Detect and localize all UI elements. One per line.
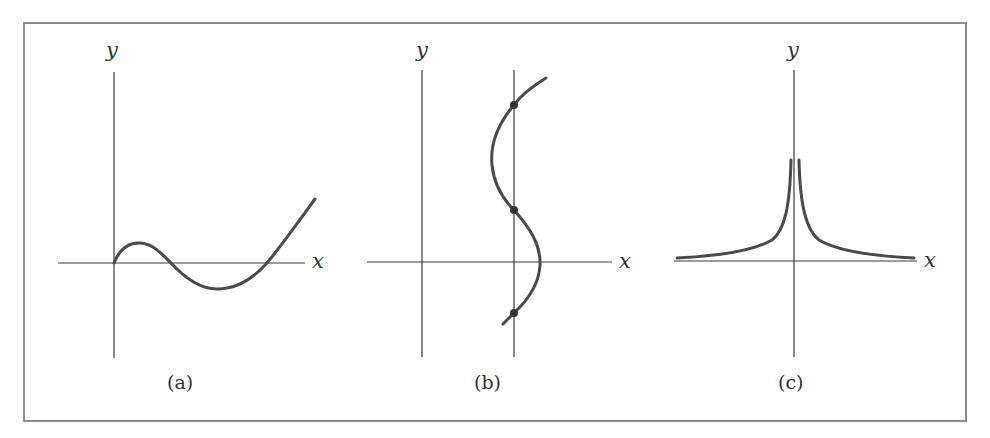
panel-b-intersection-dot-bottom	[510, 309, 518, 317]
panel-a-curve	[114, 199, 315, 289]
function-graphs-figure: y x (a) y x (b) y x (c)	[0, 0, 990, 438]
panel-c: y x (c)	[674, 38, 936, 393]
panel-a: y x (a)	[58, 38, 324, 393]
panel-b-s-curve	[492, 78, 546, 324]
panel-b-caption: (b)	[474, 371, 501, 393]
panel-b-intersection-dot-top	[510, 101, 518, 109]
panel-c-curve-left	[677, 160, 791, 258]
panel-c-caption: (c)	[778, 371, 803, 393]
panel-b-x-label: x	[619, 249, 631, 273]
figure-frame	[24, 23, 966, 421]
panel-a-x-label: x	[312, 249, 324, 273]
panel-b-intersection-dot-middle	[510, 206, 518, 214]
panel-a-y-label: y	[105, 38, 119, 62]
panel-a-caption: (a)	[167, 371, 193, 393]
panel-c-x-label: x	[924, 248, 936, 272]
panel-b: y x (b)	[367, 38, 631, 393]
panel-b-y-label: y	[415, 38, 429, 62]
panel-c-curve-right	[799, 160, 914, 258]
panel-c-y-label: y	[786, 38, 800, 62]
